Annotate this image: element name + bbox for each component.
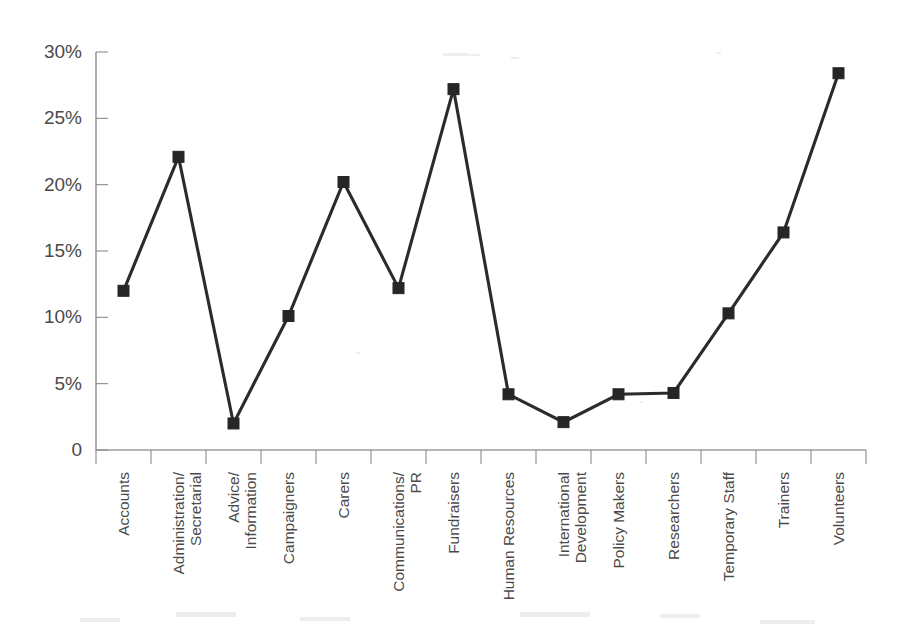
- data-point-marker: [338, 177, 349, 188]
- scan-speck: [80, 618, 120, 622]
- x-axis-label-line: Development: [572, 471, 589, 563]
- data-point-marker: [393, 283, 404, 294]
- chart-container: 05%10%15%20%25%30% AccountsAdministratio…: [0, 0, 911, 643]
- x-axis-label-line: International: [555, 472, 572, 557]
- x-axis-label: Human Resources: [500, 472, 517, 601]
- x-axis-label: Volunteers: [830, 472, 847, 545]
- x-axis-label-line: Human Resources: [500, 472, 517, 601]
- scan-speck: [760, 620, 815, 624]
- y-tick-label: 15%: [44, 240, 82, 261]
- data-point-marker: [283, 311, 294, 322]
- x-axis-label: Policy Makers: [610, 472, 627, 569]
- data-point-marker: [558, 417, 569, 428]
- x-axis-label-line: Temporary Staff: [720, 471, 737, 581]
- x-axis-label: Fundraisers: [445, 472, 462, 554]
- scan-speck: [356, 352, 360, 354]
- data-point-marker: [723, 308, 734, 319]
- y-tick-label: 10%: [44, 306, 82, 327]
- data-point-marker: [778, 227, 789, 238]
- x-axis-label-line: Researchers: [665, 472, 682, 560]
- y-tick-label: 30%: [44, 41, 82, 62]
- scan-speck: [660, 614, 700, 618]
- data-point-marker: [503, 389, 514, 400]
- scan-speck: [520, 612, 590, 617]
- x-axis-label: Accounts: [115, 472, 132, 536]
- x-axis-label: Temporary Staff: [720, 471, 737, 581]
- y-tick-label: 5%: [55, 373, 83, 394]
- x-axis-label-line: Campaigners: [280, 472, 297, 564]
- x-axis-label-line: Trainers: [775, 472, 792, 529]
- scan-speck: [511, 57, 519, 59]
- x-axis-label: Campaigners: [280, 472, 297, 564]
- x-axis-label-line: Volunteers: [830, 472, 847, 545]
- x-axis-label-line: Secretarial: [187, 472, 204, 546]
- scan-speck: [640, 401, 643, 403]
- x-axis-label: Trainers: [775, 472, 792, 529]
- x-axis-label-line: Policy Makers: [610, 472, 627, 569]
- x-axis-label-line: Carers: [335, 472, 352, 519]
- data-point-marker: [228, 418, 239, 429]
- x-axis-label: Researchers: [665, 472, 682, 560]
- x-axis-label-line: Advice/: [225, 471, 242, 523]
- data-point-marker: [118, 285, 129, 296]
- x-axis-label-line: Administration/: [170, 471, 187, 574]
- data-point-marker: [833, 68, 844, 79]
- data-point-marker: [668, 387, 679, 398]
- scan-speck: [300, 617, 350, 621]
- scan-speck: [470, 54, 480, 56]
- x-axis-label: InternationalDevelopment: [555, 471, 589, 563]
- x-axis-label-line: PR: [407, 472, 424, 494]
- x-axis-label-line: Communications/: [390, 471, 407, 591]
- data-point-marker: [173, 151, 184, 162]
- y-tick-label: 20%: [44, 174, 82, 195]
- data-point-marker: [448, 84, 459, 95]
- line-chart: 05%10%15%20%25%30% AccountsAdministratio…: [0, 0, 911, 643]
- scan-speck: [176, 612, 236, 617]
- x-axis-label-line: Accounts: [115, 472, 132, 536]
- data-point-marker: [613, 389, 624, 400]
- y-tick-label: 0: [71, 439, 82, 460]
- x-axis-label-line: Fundraisers: [445, 472, 462, 554]
- x-axis-label: Carers: [335, 472, 352, 519]
- scan-speck: [716, 52, 721, 54]
- x-axis-label-line: Information: [242, 472, 259, 550]
- scan-speck: [443, 53, 469, 56]
- y-tick-label: 25%: [44, 107, 82, 128]
